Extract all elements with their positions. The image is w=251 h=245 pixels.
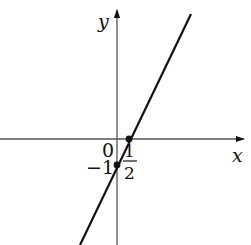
function-graph: y x 0 −1 1 2 [0,0,251,245]
fraction-numerator: 1 [124,141,135,161]
y-intercept-label: −1 [86,156,114,178]
x-axis-label: x [232,144,243,166]
function-line [80,14,191,245]
y-intercept-point [114,162,121,169]
y-axis-label: y [97,10,109,32]
fraction-denominator: 2 [124,163,135,183]
